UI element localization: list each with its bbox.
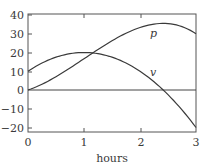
y-tick-label: 40 — [10, 9, 24, 22]
y-tick-label: −10 — [1, 103, 24, 116]
series-v-label: v — [150, 66, 157, 79]
series-p-label: p — [150, 27, 157, 40]
x-tick-label: 1 — [81, 136, 88, 149]
y-tick-label: 10 — [10, 66, 24, 79]
y-tick-label: 30 — [10, 28, 24, 41]
y-axis-labels: 40 30 20 10 0 −10 −20 — [1, 9, 24, 135]
x-tick-label: 2 — [138, 136, 145, 149]
x-axis-labels: 0 1 2 3 — [25, 136, 200, 149]
chart-canvas: 40 30 20 10 0 −10 −20 0 1 2 3 hours p v — [0, 0, 209, 166]
x-axis-ticks — [84, 14, 141, 132]
x-axis-title: hours — [96, 152, 128, 165]
plot-frame — [28, 14, 196, 132]
y-tick-label: 20 — [10, 47, 24, 60]
y-tick-label: 0 — [17, 84, 24, 97]
y-tick-label: −20 — [1, 122, 24, 135]
x-tick-label: 3 — [193, 136, 200, 149]
x-tick-label: 0 — [25, 136, 32, 149]
